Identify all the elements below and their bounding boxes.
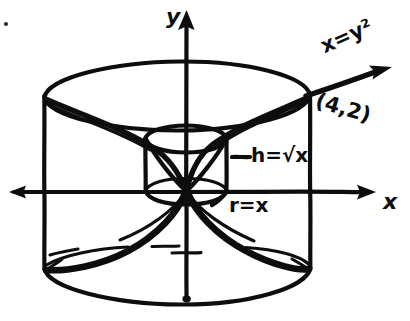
y-axis-label: y xyxy=(166,4,182,29)
x-equals-y-squared-arrow-shaft xyxy=(306,71,378,96)
shell-height-label: h=√x xyxy=(251,143,308,167)
cylinder-bottom-back-arc-dash xyxy=(152,246,179,247)
cylinder-bottom-front-arc xyxy=(45,268,311,305)
paraboloid-lower-surface xyxy=(46,193,309,270)
ink-speck xyxy=(4,22,8,26)
x-axis-label: x xyxy=(382,189,398,214)
x-axis-left-arrowhead xyxy=(9,186,26,199)
y-axis-bottom-dot xyxy=(182,296,190,303)
point-label: (4,2) xyxy=(313,89,374,128)
curve-equation-label: x=y² xyxy=(317,14,376,58)
diagram-canvas: y x x=y² (4,2) h=√x r=x xyxy=(0,0,410,321)
paraboloid-lower-left-generator xyxy=(46,193,185,270)
shell-radius-label: r=x xyxy=(229,193,269,217)
handdrawn-figure: y x x=y² (4,2) h=√x r=x xyxy=(0,0,410,321)
